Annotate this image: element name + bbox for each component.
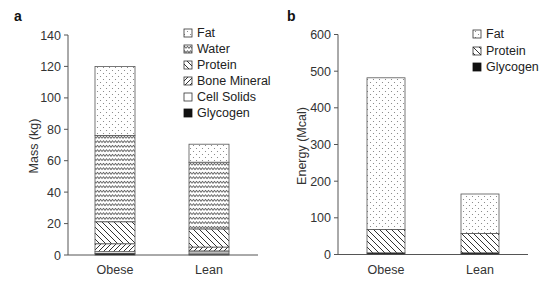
legend-label-water: Water xyxy=(197,42,230,56)
panel-b-tick: 600 xyxy=(310,28,331,42)
panel-b-category-obese: Obese xyxy=(368,263,405,277)
panel-a-category-lean: Lean xyxy=(195,263,223,277)
panel-b-category-lean: Lean xyxy=(466,263,494,277)
panel-a-tick: 40 xyxy=(47,186,61,200)
panel-a-tick: 80 xyxy=(47,123,61,137)
segment-protein xyxy=(367,230,405,253)
panel-a-tick: 100 xyxy=(40,91,61,105)
segment-protein xyxy=(95,222,135,244)
segment-fat xyxy=(189,144,229,162)
panel-a-tick: 20 xyxy=(47,217,61,231)
panel-b-bar-obese xyxy=(367,78,405,255)
segment-glycogen xyxy=(367,253,405,255)
legend-label-glycogen: Glycogen xyxy=(197,106,250,120)
panel-a-bar-lean xyxy=(189,144,229,255)
segment-glycogen xyxy=(461,253,499,255)
panel-a-bar-obese xyxy=(95,66,135,255)
segment-bone-mineral xyxy=(189,247,229,251)
segment-bone-mineral xyxy=(95,244,135,252)
panel-a-tick: 60 xyxy=(47,154,61,168)
panel-a-category-obese: Obese xyxy=(97,263,134,277)
segment-glycogen xyxy=(95,253,135,255)
legend-swatch-water xyxy=(184,45,192,53)
panel-a-legend: Fat Water Protein Bone Mineral Cell Soli… xyxy=(184,26,271,120)
legend-label-fat: Fat xyxy=(197,26,216,40)
panel-a-label: a xyxy=(14,8,22,24)
legend-swatch-cell-solids xyxy=(184,93,192,101)
segment-fat xyxy=(367,78,405,230)
legend-swatch-glycogen xyxy=(473,63,481,71)
segment-protein xyxy=(461,234,499,253)
segment-fat xyxy=(95,66,135,135)
segment-water xyxy=(95,136,135,222)
legend-label-fat: Fat xyxy=(486,27,505,41)
legend-label-glycogen: Glycogen xyxy=(486,60,539,74)
legend-swatch-protein xyxy=(184,61,192,69)
panel-b-tick: 300 xyxy=(310,138,331,152)
legend-label-protein: Protein xyxy=(197,58,237,72)
legend-label-protein: Protein xyxy=(486,44,526,58)
panel-b-y-ticks: 0 100 200 300 400 500 600 xyxy=(310,28,338,262)
panel-b: b Energy (Mcal) 0 100 200 300 400 500 60… xyxy=(287,8,539,277)
panel-b-bar-lean xyxy=(461,194,499,255)
legend-swatch-glycogen xyxy=(184,109,192,117)
legend-label-cell-solids: Cell Solids xyxy=(197,90,256,104)
panel-b-label: b xyxy=(287,8,296,24)
panel-a-tick: 140 xyxy=(40,29,61,43)
panel-b-tick: 200 xyxy=(310,175,331,189)
segment-protein xyxy=(189,229,229,247)
segment-water xyxy=(189,162,229,229)
figure: a Mass (kg) 0 20 40 60 80 100 120 140 xyxy=(0,0,547,283)
segment-fat xyxy=(461,194,499,234)
legend-swatch-protein xyxy=(473,47,481,55)
segment-cell-solids xyxy=(189,251,229,254)
panel-a-y-axis-label: Mass (kg) xyxy=(27,119,41,174)
panel-b-y-axis-label: Energy (Mcal) xyxy=(295,107,309,185)
panel-b-tick: 500 xyxy=(310,65,331,79)
legend-swatch-fat xyxy=(473,30,481,38)
panel-b-tick: 0 xyxy=(324,248,331,262)
panel-a-y-ticks: 0 20 40 60 80 100 120 140 xyxy=(40,29,68,263)
segment-glycogen xyxy=(189,254,229,255)
panel-a-tick: 120 xyxy=(40,60,61,74)
panel-b-legend: Fat Protein Glycogen xyxy=(473,27,539,74)
legend-swatch-fat xyxy=(184,29,192,37)
panel-a: a Mass (kg) 0 20 40 60 80 100 120 140 xyxy=(14,8,271,277)
panel-b-tick: 400 xyxy=(310,101,331,115)
legend-label-bone-mineral: Bone Mineral xyxy=(197,74,271,88)
legend-swatch-bone-mineral xyxy=(184,77,192,85)
panel-b-tick: 100 xyxy=(310,211,331,225)
panel-a-tick: 0 xyxy=(54,249,61,263)
